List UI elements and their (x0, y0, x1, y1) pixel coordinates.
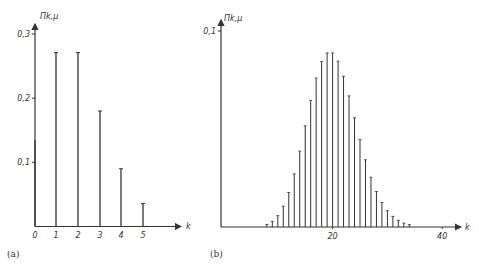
figure: Πk,μk0,10,20,3012345(a) Πk,μk0,12040(b) (0, 0, 479, 277)
x-axis-label: k (465, 223, 470, 232)
x-tick-label: 20 (328, 232, 338, 241)
x-tick-label: 2 (75, 231, 80, 240)
y-tick-label: 0,1 (203, 27, 216, 36)
x-tick-label: 3 (97, 231, 102, 240)
x-tick-label: 4 (118, 231, 123, 240)
y-tick-label: 0,2 (17, 94, 30, 103)
panel-b: Πk,μk0,12040(b) (203, 14, 470, 259)
panel-caption: (a) (7, 249, 19, 259)
y-tick-label: 0,1 (17, 158, 30, 167)
panel-caption: (b) (210, 249, 223, 259)
panel-a: Πk,μk0,10,20,3012345(a) (7, 12, 191, 259)
x-tick-label: 5 (140, 231, 145, 240)
y-tick-label: 0,3 (17, 30, 30, 39)
x-tick-label: 40 (437, 232, 447, 241)
y-axis-label: Πk,μ (224, 14, 242, 23)
x-tick-label: 0 (32, 231, 37, 240)
y-axis-label: Πk,μ (40, 12, 58, 21)
x-axis-label: k (186, 222, 191, 231)
x-tick-label: 1 (53, 231, 58, 240)
